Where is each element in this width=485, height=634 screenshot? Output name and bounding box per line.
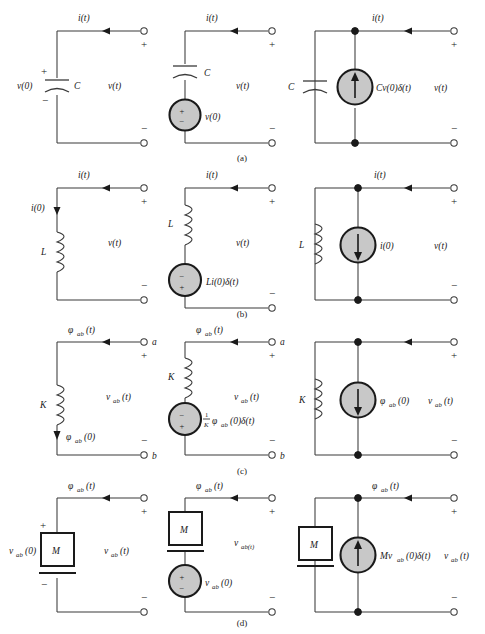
- label-element-b2: L: [167, 219, 173, 229]
- svg-text:v: v: [428, 396, 433, 406]
- terminal-minus-c2: −: [269, 434, 275, 446]
- terminal-bottom-d2[interactable]: [269, 609, 275, 615]
- current-arrow-b3: [404, 185, 412, 192]
- terminal-plus-d3: +: [451, 505, 457, 517]
- terminal-top-a2[interactable]: [269, 28, 275, 34]
- label-across-b2: v(t): [236, 238, 249, 249]
- terminal-top-d2[interactable]: [269, 495, 275, 501]
- circuit-a1: i(t) C v(0) v(t) + − + −: [17, 13, 147, 146]
- label-source-d2: v ab (0): [205, 578, 232, 590]
- terminal-top-a3[interactable]: [451, 28, 457, 34]
- terminal-top-b3[interactable]: [451, 185, 457, 191]
- svg-text:ab: ab: [451, 556, 458, 563]
- svg-text:(0)δ(t): (0)δ(t): [230, 416, 254, 427]
- terminal-top-b2[interactable]: [269, 185, 275, 191]
- voltage-source-c2[interactable]: [169, 403, 201, 435]
- label-across-d3: v ab (t): [444, 551, 469, 563]
- svg-text:ab: ab: [205, 330, 212, 337]
- terminal-top-c3[interactable]: [451, 339, 457, 345]
- voltage-source-b2[interactable]: [169, 264, 201, 296]
- terminal-b-c1[interactable]: [141, 452, 147, 458]
- terminal-a-c1[interactable]: [141, 339, 147, 345]
- terminal-top-b1[interactable]: [141, 185, 147, 191]
- svg-text:φ: φ: [68, 325, 73, 335]
- current-arrow-b1: [102, 185, 110, 192]
- svg-text:φ: φ: [66, 432, 71, 442]
- circuit-a2: + − i(t) C v(0) v(t) + −: [170, 13, 276, 146]
- label-source-a2: v(0): [205, 112, 220, 123]
- label-source-b3: i(0): [380, 241, 394, 252]
- circuit-b2: − + i(t) L Li(0)δ(t) v(t) + −: [167, 170, 275, 311]
- circuit-c2: − + φ ab (t) K 1 K φ ab (0)δ(t) v ab (t)…: [167, 325, 285, 461]
- svg-text:ab: ab: [435, 401, 442, 408]
- voltage-source-d2[interactable]: [169, 565, 201, 597]
- inductor-coil-b2: [185, 205, 192, 245]
- initial-current-arrow-b1: [54, 207, 61, 215]
- inductor-coil-b1: [57, 232, 64, 272]
- terminal-a-c2[interactable]: [269, 339, 275, 345]
- svg-text:ab: ab: [381, 486, 388, 493]
- label-element-a3: C: [288, 82, 295, 92]
- terminal-bottom-b3[interactable]: [451, 297, 457, 303]
- label-across-b3: v(t): [434, 241, 447, 252]
- label-current-b1: i(t): [78, 170, 90, 181]
- capacitor-plate-bottom-a2: [173, 75, 197, 79]
- terminal-plus-b1: +: [141, 195, 147, 207]
- row-b: i(t) i(0) L v(t) + − − + i(t) L Li(0)δ: [31, 170, 457, 319]
- row-label-d: (d): [237, 618, 248, 628]
- label-across-c1: v ab (t): [106, 392, 131, 404]
- svg-text:v: v: [205, 578, 210, 588]
- svg-text:v: v: [9, 546, 14, 556]
- junction-top-b3: [355, 185, 362, 192]
- spring-coil-c2: [185, 358, 192, 398]
- terminal-top-a1[interactable]: [141, 28, 147, 34]
- current-arrow-a3: [404, 28, 412, 35]
- label-flux-d1: φ ab (t): [68, 481, 95, 493]
- terminal-top-d1[interactable]: [141, 495, 147, 501]
- svg-text:ab: ab: [397, 556, 404, 563]
- terminal-bottom-a1[interactable]: [141, 140, 147, 146]
- svg-text:(0)δ(t): (0)δ(t): [406, 551, 430, 562]
- terminal-bottom-a3[interactable]: [451, 140, 457, 146]
- voltage-source-a2[interactable]: [170, 100, 201, 131]
- svg-text:(t): (t): [214, 481, 223, 492]
- terminal-minus-b3: −: [451, 279, 457, 291]
- label-current-a1: i(t): [78, 13, 90, 24]
- terminal-bottom-b2[interactable]: [269, 305, 275, 311]
- spring-coil-c1: [57, 385, 64, 425]
- flux-arrow-d3: [404, 495, 412, 502]
- row-d: M φ ab (t) v ab (0) v ab (t) + − + −: [9, 481, 469, 628]
- circuit-figure: i(t) C v(0) v(t) + − + − + − i(t) C: [0, 0, 485, 634]
- flux-arrow-d2: [230, 495, 238, 502]
- element-minus-d1: −: [41, 578, 47, 590]
- svg-text:(t): (t): [250, 392, 259, 403]
- terminal-letter-a-c1: a: [152, 337, 157, 347]
- svg-text:(t): (t): [214, 325, 223, 336]
- label-element-a1: C: [74, 81, 81, 91]
- terminal-b-c2[interactable]: [269, 452, 275, 458]
- terminal-bottom-d1[interactable]: [141, 609, 147, 615]
- terminal-plus-c1: +: [141, 349, 147, 361]
- terminal-minus-a3: −: [451, 122, 457, 134]
- circuit-d3: M φ ab (t) Mv ab (0)δ(t) v ab (t) +: [297, 481, 469, 615]
- terminal-bottom-c3[interactable]: [451, 452, 457, 458]
- svg-text:ab: ab: [389, 401, 396, 408]
- svg-text:(t): (t): [86, 325, 95, 336]
- row-a: i(t) C v(0) v(t) + − + − + − i(t) C: [17, 13, 457, 163]
- label-element-b3: L: [298, 240, 304, 250]
- terminal-minus-a1: −: [141, 122, 147, 134]
- terminal-bottom-b1[interactable]: [141, 297, 147, 303]
- terminal-bottom-d3[interactable]: [451, 609, 457, 615]
- svg-text:(0): (0): [84, 432, 95, 443]
- terminal-bottom-a2[interactable]: [269, 140, 275, 146]
- spring-coil-c3: [315, 379, 322, 419]
- label-across-a3: v(t): [434, 83, 447, 94]
- source-plus-b2: +: [180, 282, 185, 292]
- source-plus-c2: +: [180, 421, 185, 431]
- label-initial-d1: v ab (0): [9, 546, 36, 558]
- svg-text:ab: ab: [212, 583, 219, 590]
- svg-text:ab: ab: [113, 397, 120, 404]
- terminal-top-d3[interactable]: [451, 495, 457, 501]
- label-current-a2: i(t): [206, 13, 218, 24]
- svg-text:φ: φ: [196, 481, 201, 491]
